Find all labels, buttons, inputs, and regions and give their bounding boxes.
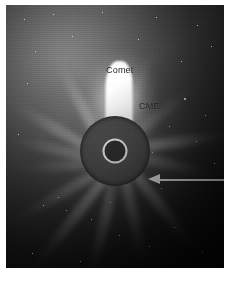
coronagraph-screenshot: Comet CME <box>0 0 231 281</box>
coronagraph-image-frame: Comet CME <box>6 5 224 268</box>
cme-label: CME <box>139 101 160 111</box>
comet-label: Comet <box>106 65 134 75</box>
vignette-overlay <box>6 5 224 268</box>
